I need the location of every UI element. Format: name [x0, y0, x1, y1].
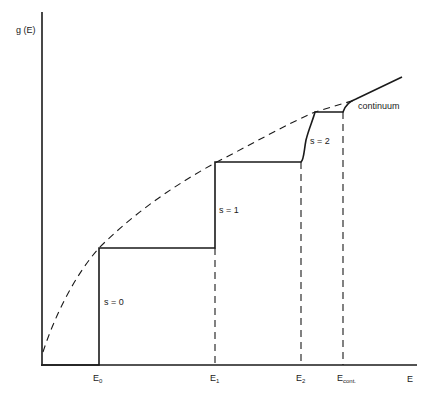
x-axis-label: E: [407, 374, 413, 384]
continuum-label: continuum: [358, 101, 400, 111]
tick-e0-sub: 0: [99, 378, 102, 384]
continuum-envelope-dashed: [43, 100, 355, 352]
tick-e0: E0: [93, 373, 102, 384]
density-of-states-diagram: [0, 0, 433, 394]
step-label-s2: s = 2: [310, 136, 330, 146]
tick-econt-sub: cont.: [343, 378, 356, 384]
tick-e1-sub: 1: [216, 378, 219, 384]
step-label-s1: s = 1: [219, 205, 239, 215]
step-density-curve: [43, 77, 402, 365]
y-axis-label: g (E): [16, 25, 36, 35]
step-label-s0: s = 0: [104, 297, 124, 307]
tick-e2-sub: 2: [302, 378, 305, 384]
tick-econt: Econt.: [337, 373, 356, 384]
tick-e1: E1: [210, 373, 219, 384]
tick-e2: E2: [296, 373, 305, 384]
